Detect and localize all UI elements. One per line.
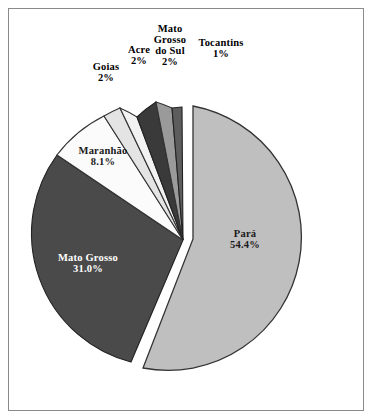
slice-label-tocantins-name: Tocantins — [184, 37, 258, 48]
pie-chart-figure: Goias 2% Acre 2% Mato Grosso do Sul 2% T… — [0, 0, 372, 419]
slice-label-tocantins: Tocantins 1% — [184, 37, 258, 59]
slice-label-mato-grosso: Mato Grosso 31.0% — [36, 252, 140, 274]
slice-label-goias-value: 2% — [78, 72, 134, 83]
slice-label-maranhao-value: 8.1% — [58, 156, 148, 167]
slice-label-para-value: 54.4% — [213, 239, 277, 250]
slice-label-para-name: Pará — [213, 228, 277, 239]
slice-label-tocantins-value: 1% — [184, 48, 258, 59]
slice-label-para: Pará 54.4% — [213, 228, 277, 250]
slice-label-maranhao: Maranhão 8.1% — [58, 145, 148, 167]
slice-label-mato-grosso-value: 31.0% — [36, 263, 140, 274]
slice-label-mato-grosso-do-sul-name-line1: Mato — [144, 23, 196, 34]
slice-label-maranhao-name: Maranhão — [58, 145, 148, 156]
slice-label-mato-grosso-name: Mato Grosso — [36, 252, 140, 263]
